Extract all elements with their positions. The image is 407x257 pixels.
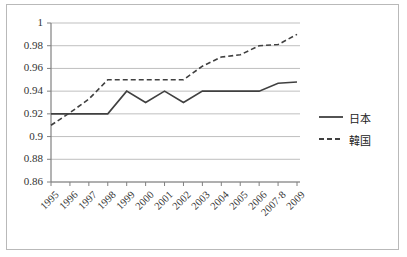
y-axis-tick-label: 0.92 xyxy=(3,108,43,119)
y-axis-tick-label: 0.88 xyxy=(3,153,43,164)
legend-label-1: 韓国 xyxy=(349,132,371,148)
y-axis-tick-label: 0.86 xyxy=(3,176,43,187)
y-axis-tick-label: 1 xyxy=(3,17,43,28)
series-line-1 xyxy=(51,34,297,125)
y-axis-tick-label: 0.98 xyxy=(3,40,43,51)
legend-label-0: 日本 xyxy=(349,110,371,126)
y-axis-tick-label: 0.94 xyxy=(3,85,43,96)
series-line-0 xyxy=(51,82,297,114)
chart-frame: 10.980.960.940.920.90.880.86199519961997… xyxy=(6,4,399,250)
y-axis-tick-label: 0.96 xyxy=(3,62,43,73)
y-axis-tick-label: 0.9 xyxy=(3,131,43,142)
